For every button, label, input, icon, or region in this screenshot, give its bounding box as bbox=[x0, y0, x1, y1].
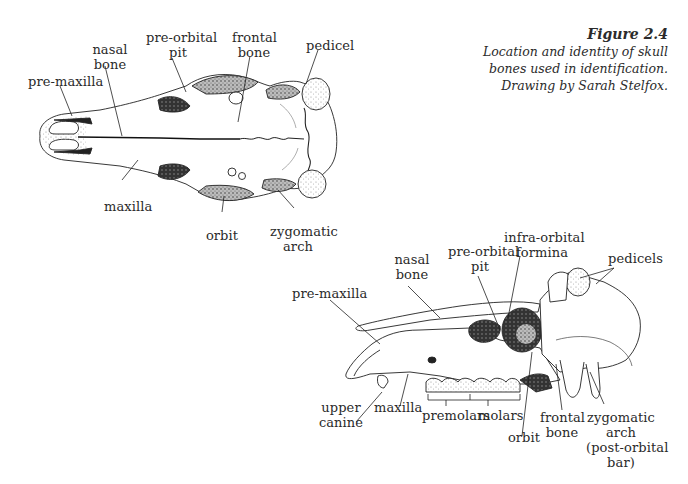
dorsal-skull bbox=[40, 74, 337, 200]
label-line: frontal bbox=[540, 410, 584, 425]
label-dorsal-maxilla: maxilla bbox=[104, 199, 148, 214]
label-line: bone bbox=[90, 57, 130, 72]
label-dorsal-pre-orbital-pit: pre-orbital pit bbox=[146, 30, 210, 60]
label-line: zygomatic bbox=[270, 224, 326, 239]
label-dorsal-zygomatic-arch: zygomatic arch bbox=[270, 224, 326, 254]
label-line: nasal bbox=[392, 252, 432, 267]
label-line: frontal bbox=[232, 30, 276, 45]
label-line: (post-orbital bbox=[586, 440, 656, 455]
label-lateral-nasal-bone: nasal bone bbox=[392, 252, 432, 282]
label-lateral-premolars: premolars bbox=[422, 408, 476, 423]
label-lateral-pedicels: pedicels bbox=[608, 251, 660, 266]
label-lateral-pre-maxilla: pre-maxilla bbox=[292, 286, 356, 301]
label-line: pre-orbital bbox=[448, 244, 512, 259]
label-dorsal-frontal-bone: frontal bone bbox=[232, 30, 276, 60]
label-line: bar) bbox=[586, 455, 656, 470]
lateral-skull bbox=[346, 268, 641, 398]
label-dorsal-orbit: orbit bbox=[204, 228, 240, 243]
label-lateral-upper-canine: upper canine bbox=[318, 400, 364, 430]
label-line: pit bbox=[448, 259, 512, 274]
label-lateral-orbit: orbit bbox=[506, 430, 542, 445]
label-lateral-pre-orbital-pit: pre-orbital pit bbox=[448, 244, 512, 274]
label-line: infra-orbital bbox=[504, 230, 580, 245]
label-line: bone bbox=[540, 425, 584, 440]
label-line: arch bbox=[586, 425, 656, 440]
label-lateral-zygomatic-arch: zygomatic arch (post-orbital bar) bbox=[586, 410, 656, 470]
label-line: pre-orbital bbox=[146, 30, 210, 45]
label-lateral-maxilla: maxilla bbox=[374, 400, 420, 415]
label-line: pit bbox=[146, 45, 210, 60]
label-line: bone bbox=[392, 267, 432, 282]
label-line: arch bbox=[270, 239, 326, 254]
label-lateral-molars: molars bbox=[478, 408, 518, 423]
label-dorsal-pre-maxilla: pre-maxilla bbox=[28, 74, 92, 89]
label-dorsal-pedicel: pedicel bbox=[306, 38, 352, 53]
label-line: zygomatic bbox=[586, 410, 656, 425]
label-line: bone bbox=[232, 45, 276, 60]
label-line: upper bbox=[318, 400, 364, 415]
label-line: nasal bbox=[90, 42, 130, 57]
label-lateral-infra-orbital-formina: infra-orbital formina bbox=[504, 230, 580, 260]
label-dorsal-nasal-bone: nasal bone bbox=[90, 42, 130, 72]
label-lateral-frontal-bone: frontal bone bbox=[540, 410, 584, 440]
label-line: canine bbox=[318, 415, 364, 430]
label-line: formina bbox=[504, 245, 580, 260]
